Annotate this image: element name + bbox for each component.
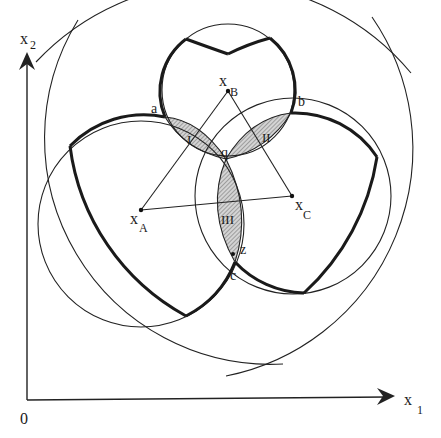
origin-label: 0 — [20, 410, 28, 427]
region-I-lens — [165, 117, 226, 159]
label-region-III: III — [221, 212, 234, 227]
dot-z — [231, 252, 235, 256]
voting-geometry-diagram: x 2 x 1 0 x A x B x C a b q c z I II III — [0, 0, 441, 438]
label-point-a: a — [151, 101, 158, 116]
boundary-C-top — [291, 113, 377, 157]
boundary-B-right — [270, 38, 295, 113]
axes — [19, 52, 395, 405]
x-axis-label: x — [404, 391, 412, 408]
large-arc-right — [226, 17, 413, 376]
label-point-c: c — [230, 268, 236, 283]
boundary-A-top — [70, 115, 165, 146]
edge-A-C — [141, 196, 292, 210]
hatched-regions — [165, 113, 291, 262]
label-xC: x — [295, 196, 303, 213]
label-xB-sub: B — [230, 85, 238, 99]
dot-xC — [290, 194, 294, 198]
label-xC-sub: C — [303, 208, 311, 222]
region-III-lens — [217, 159, 241, 262]
label-region-II: II — [262, 130, 271, 145]
large-arc-top — [36, 0, 411, 73]
label-point-b: b — [298, 94, 305, 109]
x-axis — [27, 397, 387, 400]
label-xA-sub: A — [139, 221, 148, 235]
y-axis-label: x — [20, 30, 28, 47]
region-II-lens — [226, 113, 291, 159]
label-point-q: q — [221, 145, 228, 160]
boundary-right-big — [304, 157, 377, 293]
y-axis-subscript: 2 — [30, 38, 36, 52]
x-axis-subscript: 1 — [417, 403, 423, 417]
label-point-z: z — [240, 242, 246, 257]
boundary-A-bottom — [186, 262, 235, 316]
boundary-C-bottom — [235, 262, 304, 293]
small-circles — [38, 24, 391, 327]
label-xB: x — [219, 72, 227, 89]
label-region-I: I — [187, 132, 191, 147]
boundary-top-right — [228, 38, 270, 54]
boundary-top-left — [186, 39, 228, 54]
dot-xA — [139, 208, 143, 212]
label-xA: x — [130, 210, 138, 227]
